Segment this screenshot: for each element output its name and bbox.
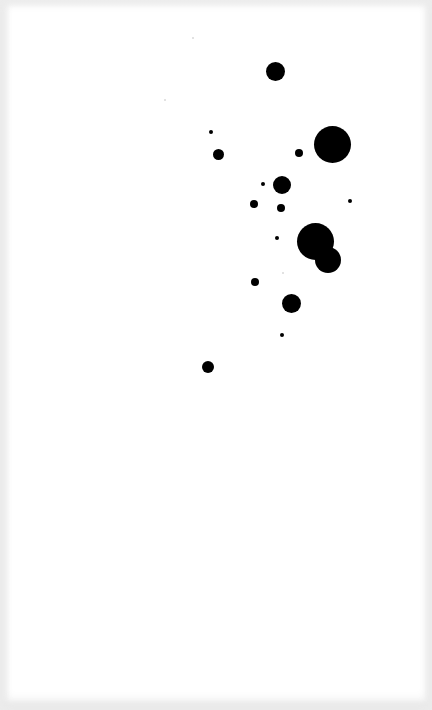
vignette [0, 0, 432, 710]
speck [282, 272, 284, 274]
left-edge-shading [0, 0, 10, 710]
paper-background [0, 0, 432, 710]
black-dot [213, 149, 224, 160]
speck [192, 37, 194, 39]
black-dot [250, 200, 258, 208]
black-dot [282, 294, 301, 313]
black-dot [266, 62, 285, 81]
black-dot [348, 199, 352, 203]
black-dot [314, 126, 351, 163]
black-dot [275, 236, 279, 240]
black-dot [277, 204, 285, 212]
black-dot [261, 182, 265, 186]
black-dot [280, 333, 284, 337]
right-edge-shading [424, 0, 432, 710]
black-dot [202, 361, 214, 373]
bottom-edge-shading [0, 700, 432, 710]
black-dot [315, 247, 341, 273]
speck [164, 99, 166, 101]
top-edge-shading [0, 0, 432, 8]
black-dot [273, 176, 291, 194]
black-dot [209, 130, 213, 134]
black-dot [295, 149, 303, 157]
black-dot [251, 278, 259, 286]
